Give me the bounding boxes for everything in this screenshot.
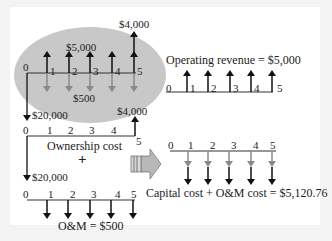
combined-om-label: $500	[73, 93, 95, 104]
om-period-1: 1	[48, 189, 54, 200]
om-period-2: 2	[70, 189, 76, 200]
equivalent-period-1: 1	[188, 140, 194, 151]
ownership-period-5: 5	[136, 136, 142, 147]
combined-period-5: 5	[137, 66, 143, 77]
combined-period-3: 3	[93, 66, 99, 77]
om-title: O&M = $500	[58, 220, 123, 232]
equivalent-period-5: 5	[270, 140, 276, 151]
ownership-period-0: 0	[23, 125, 29, 136]
combined-period-0: 0	[23, 62, 29, 73]
ownership-period-2: 2	[68, 125, 74, 136]
ownership-salvage-label: $4,000	[117, 106, 147, 117]
om-period-0: 0	[23, 189, 29, 200]
revenue-period-2: 2	[211, 83, 217, 94]
equivalent-title: Capital cost + O&M cost = $5,120.76	[146, 187, 328, 199]
ownership-period-4: 4	[111, 125, 117, 136]
om-period-5: 5	[131, 189, 137, 200]
equivalent-period-4: 4	[253, 140, 259, 151]
revenue-period-4: 4	[254, 83, 260, 94]
equivalent-period-2: 2	[210, 140, 216, 151]
revenue-period-1: 1	[190, 83, 196, 94]
om-capital-label: $20,000	[32, 172, 68, 183]
revenue-period-3: 3	[233, 83, 239, 94]
revenue-period-0: 0	[166, 83, 172, 94]
revenue-period-5: 5	[277, 83, 283, 94]
transform-block-arrow	[131, 149, 161, 179]
equivalent-period-0: 0	[168, 140, 174, 151]
plus-sign: +	[78, 152, 87, 167]
combined-period-2: 2	[72, 66, 78, 77]
om-period-4: 4	[115, 189, 121, 200]
ownership-period-3: 3	[89, 125, 95, 136]
equivalent-period-3: 3	[231, 140, 237, 151]
equivalent-cash-flow	[170, 151, 276, 182]
combined-period-4: 4	[115, 66, 121, 77]
ownership-period-1: 1	[47, 125, 53, 136]
combined-revenue-label: $5,000	[66, 42, 96, 53]
om-cash-flow	[27, 200, 135, 216]
combined-period-1: 1	[50, 66, 56, 77]
om-period-3: 3	[91, 189, 97, 200]
combined-salvage-label: $4,000	[119, 19, 149, 30]
combined-capital-label: $20,000	[32, 110, 68, 121]
revenue-title: Operating revenue = $5,000	[166, 54, 301, 66]
